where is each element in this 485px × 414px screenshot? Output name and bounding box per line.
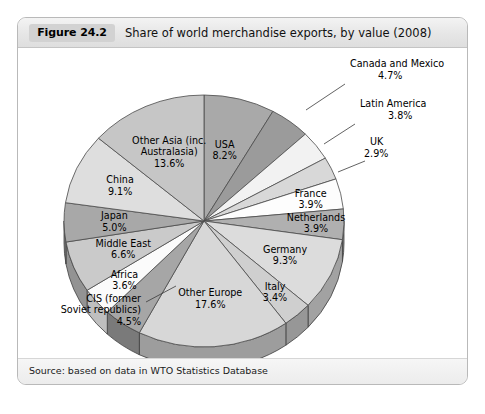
leader-line bbox=[306, 84, 345, 110]
source-note: Source: based on data in WTO Statistics … bbox=[29, 365, 268, 376]
figure-title: Share of world merchandise exports, by v… bbox=[125, 24, 431, 42]
pie-chart-svg: USA8.2%France3.9%Netherlands3.9%Germany9… bbox=[18, 48, 467, 360]
pie-label: Africa3.6% bbox=[111, 269, 138, 292]
pie-callout-label: Latin America3.8% bbox=[360, 98, 426, 121]
pie-label: Italy3.4% bbox=[263, 281, 287, 304]
pie-chart-area: USA8.2%France3.9%Netherlands3.9%Germany9… bbox=[18, 48, 467, 360]
pie-label: France3.9% bbox=[295, 188, 327, 211]
figure-number-tag: Figure 24.2 bbox=[29, 24, 115, 42]
pie-callout-label: UK2.9% bbox=[364, 136, 388, 159]
figure-source-bar: Source: based on data in WTO Statistics … bbox=[18, 358, 467, 384]
figure-card: Figure 24.2 Share of world merchandise e… bbox=[17, 17, 468, 385]
leader-line bbox=[338, 161, 365, 172]
pie-label: Japan5.0% bbox=[100, 210, 128, 233]
leader-line bbox=[324, 124, 355, 144]
pie-label: USA8.2% bbox=[212, 139, 236, 162]
pie-callout-label: Canada and Mexico4.7% bbox=[350, 58, 444, 81]
figure-header-bar: Figure 24.2 Share of world merchandise e… bbox=[18, 18, 467, 48]
pie-label: China9.1% bbox=[106, 174, 133, 197]
